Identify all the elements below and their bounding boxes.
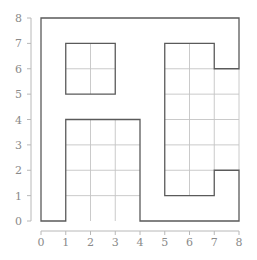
y-tick-label: 5	[15, 88, 22, 101]
x-tick-label: 0	[38, 236, 45, 249]
x-tick-label: 4	[137, 236, 144, 249]
x-tick-label: 6	[186, 236, 193, 249]
x-tick-label: 5	[161, 236, 168, 249]
x-tick-label: 1	[62, 236, 69, 249]
y-tick-label: 0	[15, 215, 22, 228]
y-tick-label: 2	[15, 164, 22, 177]
grid-diagram: 012345678 012345678	[0, 0, 257, 260]
y-tick-label: 7	[15, 37, 22, 50]
y-tick-label: 3	[15, 139, 22, 152]
y-tick-label: 8	[15, 12, 22, 25]
x-tick-label: 3	[112, 236, 119, 249]
x-tick-label: 2	[87, 236, 94, 249]
x-axis: 012345678	[38, 231, 243, 249]
diagram-canvas: 012345678 012345678	[0, 0, 257, 260]
y-axis: 012345678	[15, 12, 31, 228]
grid-lines	[66, 43, 239, 221]
y-tick-label: 4	[15, 114, 22, 127]
y-tick-label: 1	[15, 190, 22, 203]
x-tick-label: 8	[236, 236, 243, 249]
y-tick-label: 6	[15, 63, 22, 76]
x-tick-label: 7	[211, 236, 218, 249]
